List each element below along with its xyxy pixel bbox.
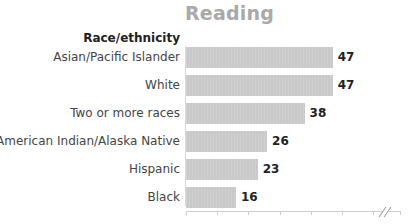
category-label: Asian/Pacific Islander — [53, 50, 180, 64]
bar — [186, 187, 236, 208]
bar — [186, 103, 305, 124]
category-label: Black — [148, 190, 180, 204]
x-axis-tick — [400, 211, 401, 215]
bar-row: White47 — [0, 75, 413, 96]
x-axis-tick — [311, 211, 312, 215]
bar — [186, 75, 333, 96]
value-label: 16 — [241, 190, 258, 204]
x-axis-tick — [342, 211, 343, 215]
category-label: Hispanic — [129, 162, 180, 176]
bar — [186, 159, 258, 180]
x-axis-tick — [280, 211, 281, 215]
category-label: American Indian/Alaska Native — [0, 134, 180, 148]
value-label: 23 — [263, 162, 280, 176]
category-label: White — [145, 78, 180, 92]
category-label: Two or more races — [70, 106, 180, 120]
y-axis-line — [185, 46, 186, 206]
bar — [186, 131, 267, 152]
value-label: 26 — [272, 134, 289, 148]
bar-row: American Indian/Alaska Native26 — [0, 131, 413, 152]
x-axis-tick — [373, 211, 374, 215]
bar-row: Black16 — [0, 187, 413, 208]
bar-row: Two or more races38 — [0, 103, 413, 124]
x-axis-tick — [186, 211, 187, 215]
value-label: 47 — [338, 50, 355, 64]
x-axis-tick — [217, 211, 218, 215]
chart-title: Reading — [185, 2, 285, 24]
x-axis-tick — [248, 211, 249, 215]
value-label: 47 — [338, 78, 355, 92]
x-axis-line — [186, 211, 382, 212]
bar-row: Hispanic23 — [0, 159, 413, 180]
category-header: Race/ethnicity — [83, 31, 180, 45]
bar — [186, 47, 333, 68]
bar-row: Asian/Pacific Islander47 — [0, 47, 413, 68]
value-label: 38 — [310, 106, 327, 120]
